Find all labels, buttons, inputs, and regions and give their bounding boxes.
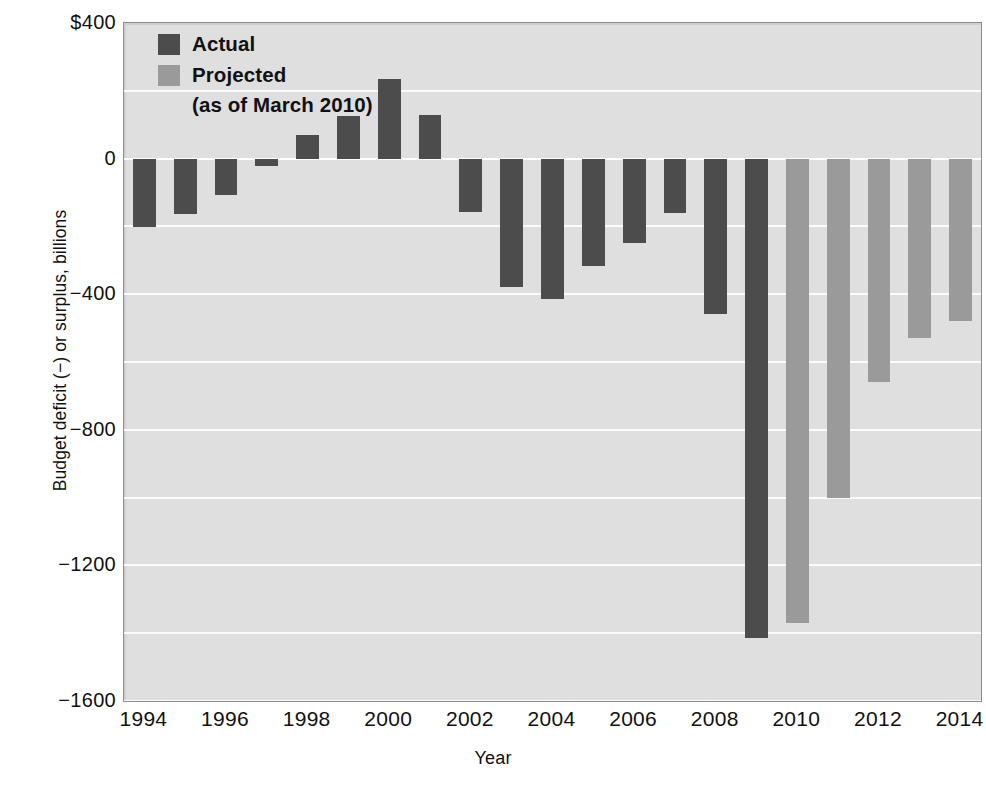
bar-2002 [459,159,482,213]
bar-2013 [908,159,931,339]
bar-1995 [174,159,197,215]
bar-2014 [949,159,972,322]
x-axis-ticks: 1994199619982000200220042006200820102012… [0,707,986,741]
bar-2008 [704,159,727,315]
x-tick-label: 2002 [446,707,494,731]
legend-swatch-projected [158,65,180,86]
legend-swatch-actual [158,34,180,55]
x-tick-label: 1996 [201,707,249,731]
chart-root: Budget deficit (−) or surplus, billions … [0,0,986,785]
x-tick-label: 2006 [609,707,657,731]
bar-2004 [541,159,564,299]
bar-2003 [500,159,523,287]
legend-label-projected: Projected [192,63,286,87]
legend-item-actual: Actual [158,31,488,57]
chart-legend: Actual Projected (as of March 2010) [158,31,488,117]
x-tick-label: 2012 [854,707,902,731]
y-tick-label: −1200 [4,553,116,576]
x-tick-label: 2008 [691,707,739,731]
x-tick-label: 2004 [528,707,576,731]
bars-layer [124,23,981,701]
bar-2009 [745,159,768,638]
bar-2012 [868,159,891,383]
bar-1996 [215,159,238,195]
bar-1999 [337,116,360,159]
x-tick-label: 1998 [283,707,331,731]
bar-1998 [296,135,319,158]
bar-2011 [827,159,850,498]
x-tick-label: 1994 [119,707,167,731]
legend-item-projected: Projected [158,62,488,88]
plot-area: Actual Projected (as of March 2010) [123,22,982,702]
y-tick-label: −400 [4,282,116,305]
x-axis-title: Year [0,748,986,769]
y-axis-ticks: $4000−400−800−1200−1600 [0,0,116,785]
bar-2005 [582,159,605,267]
bar-2001 [419,115,442,158]
bar-2010 [786,159,809,623]
y-tick-label: 0 [4,146,116,169]
x-tick-label: 2000 [364,707,412,731]
bar-1997 [255,159,278,166]
x-tick-label: 2014 [936,707,984,731]
x-tick-label: 2010 [772,707,820,731]
y-tick-label: −800 [4,417,116,440]
legend-note: (as of March 2010) [192,93,488,117]
bar-2006 [623,159,646,243]
bar-1994 [133,159,156,228]
bar-2007 [664,159,687,214]
legend-label-actual: Actual [192,32,255,56]
y-tick-label: $400 [4,11,116,34]
